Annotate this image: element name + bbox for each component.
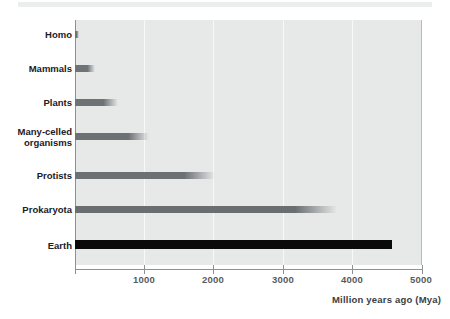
- category-label-homo: Homo: [0, 29, 72, 40]
- chart-figure: Homo Mammals Plants Many-celled organism…: [0, 0, 450, 319]
- xtick-2000: [213, 265, 214, 274]
- category-label-plants: Plants: [0, 97, 72, 108]
- xtick-5000: [422, 265, 423, 274]
- xtick-4000: [352, 265, 353, 274]
- x-axis-line: [75, 269, 423, 270]
- category-label-mammals: Mammals: [0, 63, 72, 74]
- gridline-4000: [352, 20, 353, 265]
- bar-homo: [75, 31, 79, 38]
- category-label-protists: Protists: [0, 170, 72, 181]
- gridline-3000: [283, 20, 284, 265]
- bar-plants: [75, 99, 118, 106]
- category-label-many-celled-line1: Many-celled: [0, 126, 72, 137]
- gridline-2000: [213, 20, 214, 265]
- plot-area: [75, 20, 422, 265]
- xtick-label-5000: 5000: [410, 274, 432, 285]
- xtick-label-1000: 1000: [133, 274, 155, 285]
- xtick-0: [75, 265, 76, 274]
- gridline-1000: [144, 20, 145, 265]
- top-decorative-band: [18, 2, 432, 7]
- bar-earth: [75, 240, 392, 249]
- xtick-3000: [283, 265, 284, 274]
- xtick-label-3000: 3000: [272, 274, 294, 285]
- xtick-1000: [144, 265, 145, 274]
- xtick-label-2000: 2000: [202, 274, 224, 285]
- bar-many-celled-organisms: [75, 133, 149, 140]
- x-axis-title: Million years ago (Mya): [332, 294, 441, 305]
- category-label-earth: Earth: [0, 240, 72, 251]
- category-label-many-celled-line2: organisms: [0, 137, 72, 148]
- y-axis-line: [75, 20, 76, 270]
- bar-protists: [75, 172, 215, 179]
- xtick-label-4000: 4000: [341, 274, 363, 285]
- bar-mammals: [75, 65, 95, 72]
- category-label-prokaryota: Prokaryota: [0, 204, 72, 215]
- bar-prokaryota: [75, 206, 337, 213]
